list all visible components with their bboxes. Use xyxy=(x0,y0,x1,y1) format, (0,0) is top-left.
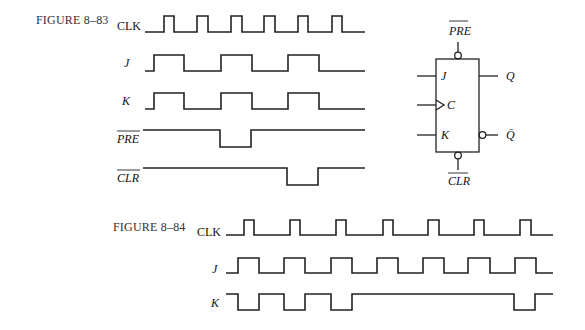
clear-inversion-bubble xyxy=(455,152,462,159)
q-output-label: Q xyxy=(506,69,515,83)
jk-flip-flop-symbol: PRE J C K Q Q̄ CLR xyxy=(417,21,515,188)
figure-title: FIGURE 8–84 xyxy=(113,220,186,234)
waveform-k xyxy=(145,93,365,109)
figure-8-83: FIGURE 8–83 CLK J K PRE CLR PRE J C K xyxy=(36,13,515,188)
waveform-clk xyxy=(226,220,553,235)
signal-label-clk: CLK xyxy=(197,225,221,239)
signal-label-pre: PRE xyxy=(116,132,140,146)
preset-inversion-bubble xyxy=(455,52,462,59)
signal-label-clr: CLR xyxy=(117,171,140,185)
preset-pin-label: PRE xyxy=(448,24,472,38)
waveform-clr xyxy=(143,168,365,185)
waveform-k xyxy=(226,294,553,310)
timing-diagrams: FIGURE 8–83 CLK J K PRE CLR PRE J C K xyxy=(0,0,585,330)
clock-triangle-icon xyxy=(436,100,444,110)
signal-label-j: J xyxy=(124,56,130,70)
qbar-output-label: Q̄ xyxy=(506,128,515,142)
signal-label-clk: CLK xyxy=(117,19,141,33)
signal-label-j: J xyxy=(212,262,218,276)
figure-title: FIGURE 8–83 xyxy=(36,13,109,27)
clear-pin-label: CLR xyxy=(448,174,471,188)
waveform-clk xyxy=(145,16,365,32)
waveform-j xyxy=(226,258,553,273)
qbar-inversion-bubble xyxy=(479,132,486,139)
clock-pin-label: C xyxy=(447,98,456,112)
figure-8-84: FIGURE 8–84 CLK J K xyxy=(113,220,553,310)
waveform-j xyxy=(145,55,365,71)
signal-label-k: K xyxy=(121,94,131,108)
j-pin-label: J xyxy=(441,69,447,83)
k-pin-label: K xyxy=(440,128,450,142)
signal-label-k: K xyxy=(210,296,220,310)
waveform-pre xyxy=(143,130,365,147)
